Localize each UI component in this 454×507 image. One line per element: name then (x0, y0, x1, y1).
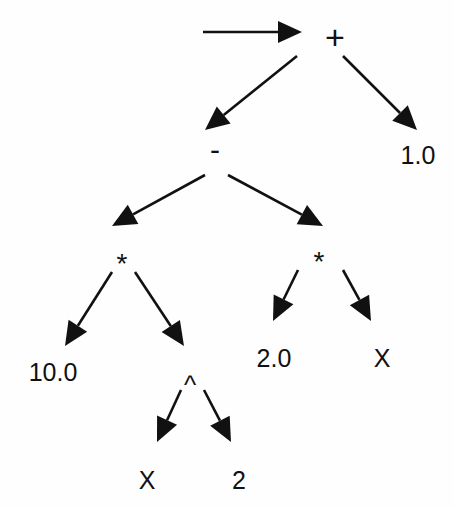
arrowhead-icon (350, 295, 371, 321)
pow-to-two (204, 390, 231, 442)
arrow-line (78, 272, 112, 326)
node-one: 1.0 (401, 143, 436, 168)
mul2-to-x1 (343, 270, 371, 321)
arrow-line (284, 270, 298, 299)
node-mul1: * (117, 250, 128, 278)
plus-to-minus (205, 56, 297, 130)
arrow-line (133, 175, 205, 214)
arrowhead-icon (65, 320, 87, 346)
minus-to-mul1 (112, 175, 205, 226)
node-x1: X (374, 346, 391, 371)
node-two0: 2.0 (257, 346, 292, 371)
node-minus: - (210, 135, 220, 165)
entry-arrow (203, 21, 302, 43)
pow-to-x2 (157, 390, 181, 442)
node-two: 2 (232, 468, 246, 493)
node-pow: ^ (184, 372, 196, 398)
arrowhead-icon (297, 205, 323, 226)
node-plus: + (325, 20, 345, 54)
arrow-line (224, 56, 297, 115)
arrow-line (204, 390, 220, 421)
mul1-to-ten (65, 272, 112, 346)
node-x2: X (139, 468, 156, 493)
minus-to-mul2 (228, 175, 323, 226)
arrow-line (228, 175, 302, 215)
mul2-to-two0 (273, 270, 298, 321)
arrow-line (343, 270, 359, 300)
arrowhead-icon (162, 320, 184, 346)
node-ten: 10.0 (29, 360, 78, 385)
arrow-line (343, 56, 400, 113)
expression-tree-diagram: +-1.0**10.0^2.0XX2 (0, 0, 454, 507)
arrowhead-icon (205, 106, 231, 130)
arrow-line (135, 272, 171, 326)
plus-to-one (343, 56, 417, 130)
arrow-line (167, 390, 181, 420)
node-mul2: * (314, 248, 325, 276)
arrowhead-icon (112, 205, 138, 226)
edges-layer (0, 0, 454, 507)
arrowhead-icon (278, 21, 302, 43)
mul1-to-pow (135, 272, 184, 346)
